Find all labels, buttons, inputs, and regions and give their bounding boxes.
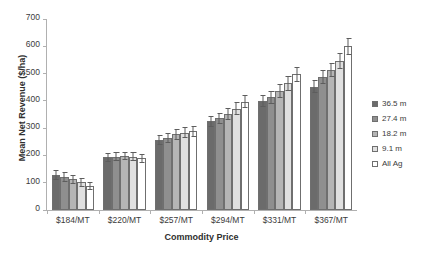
bar-all-ag bbox=[137, 158, 146, 210]
error-bar bbox=[331, 63, 332, 78]
bar-all-ag bbox=[344, 46, 353, 210]
error-bar bbox=[219, 113, 220, 124]
error-bar bbox=[184, 127, 185, 138]
bar-slot bbox=[284, 20, 293, 210]
legend-label: 18.2 m bbox=[382, 129, 406, 138]
legend-label: 9.1 m bbox=[382, 144, 402, 153]
y-tick-label: 200 bbox=[26, 148, 40, 158]
bar-group: $184/MT bbox=[47, 20, 99, 210]
error-bar bbox=[55, 170, 56, 180]
error-bar bbox=[72, 175, 73, 184]
x-tick-mark bbox=[99, 210, 100, 214]
error-bar bbox=[133, 152, 134, 161]
bar-slot bbox=[215, 20, 224, 210]
legend-item[interactable]: 9.1 m bbox=[372, 141, 438, 156]
bar-slot bbox=[69, 20, 78, 210]
error-bar bbox=[89, 182, 90, 191]
y-tick-label: 300 bbox=[26, 121, 40, 131]
bar-9-1-m bbox=[284, 83, 293, 210]
legend-item[interactable]: 36.5 m bbox=[372, 96, 438, 111]
bar-36-5-m bbox=[155, 140, 164, 210]
y-tick-label: 500 bbox=[26, 67, 40, 77]
x-tick-mark bbox=[254, 210, 255, 214]
legend-swatch-icon bbox=[372, 161, 378, 167]
bar-slot bbox=[344, 20, 353, 210]
bar-slot bbox=[77, 20, 86, 210]
legend-label: All Ag bbox=[382, 159, 402, 168]
y-tick-label: 0 bbox=[35, 203, 40, 213]
bar-9-1-m bbox=[129, 157, 138, 210]
bar-18-2-m bbox=[275, 91, 284, 210]
error-bar bbox=[64, 172, 65, 182]
plot-area: 0100200300400500600700 $184/MT$220/MT$25… bbox=[46, 20, 357, 211]
bar-36-5-m bbox=[52, 175, 61, 210]
error-bar bbox=[348, 38, 349, 55]
bar-slot bbox=[224, 20, 233, 210]
bar-slot bbox=[112, 20, 121, 210]
error-bar bbox=[244, 95, 245, 108]
bar-chart: Mean Net Revenue ($/ha) 0100200300400500… bbox=[0, 0, 444, 254]
error-bar bbox=[116, 152, 117, 161]
bar-slot bbox=[292, 20, 301, 210]
bar-9-1-m bbox=[232, 109, 241, 211]
bar-groups: $184/MT$220/MT$257/MT$294/MT$331/MT$367/… bbox=[47, 20, 357, 210]
bar-27-4-m bbox=[215, 118, 224, 210]
error-bar bbox=[81, 178, 82, 187]
bar-group: $220/MT bbox=[99, 20, 151, 210]
bar-group: $331/MT bbox=[254, 20, 306, 210]
bar-27-4-m bbox=[60, 177, 69, 210]
legend-swatch-icon bbox=[372, 131, 378, 137]
x-tick-mark bbox=[150, 210, 151, 214]
bar-slot bbox=[60, 20, 69, 210]
bar-9-1-m bbox=[335, 61, 344, 210]
x-axis-title: Commodity Price bbox=[46, 232, 357, 242]
x-tick-label: $184/MT bbox=[47, 215, 99, 225]
y-axis-title: Mean Net Revenue ($/ha) bbox=[17, 28, 27, 188]
legend-label: 27.4 m bbox=[382, 114, 406, 123]
x-tick-label: $294/MT bbox=[202, 215, 254, 225]
error-bar bbox=[107, 153, 108, 162]
chart-legend: 36.5 m27.4 m18.2 m9.1 mAll Ag bbox=[372, 96, 438, 171]
bar-all-ag bbox=[241, 102, 250, 210]
x-tick-label: $257/MT bbox=[150, 215, 202, 225]
bar-27-4-m bbox=[318, 77, 327, 210]
error-bar bbox=[279, 84, 280, 98]
legend-label: 36.5 m bbox=[382, 99, 406, 108]
bar-27-4-m bbox=[163, 138, 172, 210]
bar-36-5-m bbox=[103, 157, 112, 210]
bar-group: $257/MT bbox=[150, 20, 202, 210]
bar-slot bbox=[120, 20, 129, 210]
bar-36-5-m bbox=[310, 87, 319, 210]
bar-9-1-m bbox=[180, 133, 189, 210]
bar-slot bbox=[52, 20, 61, 210]
legend-item[interactable]: All Ag bbox=[372, 156, 438, 171]
legend-item[interactable]: 27.4 m bbox=[372, 111, 438, 126]
y-tick-label: 100 bbox=[26, 176, 40, 186]
bar-slot bbox=[129, 20, 138, 210]
error-bar bbox=[227, 108, 228, 120]
bar-slot bbox=[335, 20, 344, 210]
error-bar bbox=[314, 80, 315, 93]
error-bar bbox=[262, 95, 263, 107]
error-bar bbox=[141, 154, 142, 163]
bar-slot bbox=[207, 20, 216, 210]
bar-18-2-m bbox=[327, 70, 336, 210]
bar-slot bbox=[172, 20, 181, 210]
bar-slot bbox=[155, 20, 164, 210]
legend-item[interactable]: 18.2 m bbox=[372, 126, 438, 141]
error-bar bbox=[193, 126, 194, 137]
bar-slot bbox=[137, 20, 146, 210]
error-bar bbox=[210, 116, 211, 127]
bar-slot bbox=[241, 20, 250, 210]
bar-slot bbox=[327, 20, 336, 210]
error-bar bbox=[167, 133, 168, 143]
error-bar bbox=[339, 53, 340, 69]
bar-slot bbox=[103, 20, 112, 210]
bar-all-ag bbox=[292, 74, 301, 210]
legend-swatch-icon bbox=[372, 116, 378, 122]
error-bar bbox=[322, 70, 323, 84]
bar-slot bbox=[275, 20, 284, 210]
bar-27-4-m bbox=[267, 97, 276, 210]
bar-group: $294/MT bbox=[202, 20, 254, 210]
y-tick-label: 600 bbox=[26, 39, 40, 49]
